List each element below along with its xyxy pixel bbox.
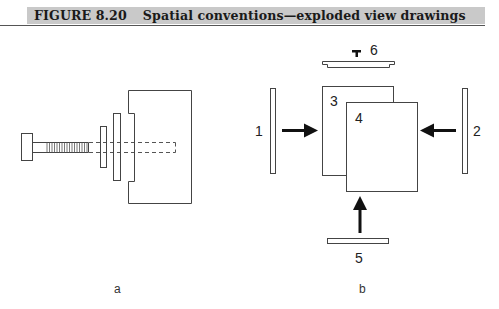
bolt-head <box>22 134 33 161</box>
panel-a <box>22 91 192 204</box>
label-1: 1 <box>255 123 263 139</box>
panel-b: 6 1 3 4 2 5 <box>255 42 481 266</box>
small-washer <box>101 127 107 168</box>
arrow-up-icon <box>353 196 367 233</box>
figure-drawing: a 6 1 3 4 2 <box>0 0 499 309</box>
t-fastener-icon <box>352 50 361 57</box>
panel-a-caption: a <box>114 282 121 296</box>
label-4: 4 <box>355 110 363 126</box>
arrow-left-icon <box>420 124 456 138</box>
hidden-bore-dashed <box>89 143 176 153</box>
large-washer <box>114 114 121 181</box>
panel-b-caption: b <box>359 282 366 296</box>
part-6-plate <box>323 62 395 68</box>
arrow-right-icon <box>282 124 318 138</box>
stepped-block <box>129 91 192 204</box>
bolt-threads <box>47 143 87 153</box>
part-1-bar <box>271 89 276 174</box>
part-2-bar <box>463 89 468 174</box>
label-5: 5 <box>355 250 363 266</box>
label-6: 6 <box>370 42 378 58</box>
part-5-bar <box>328 239 389 244</box>
label-3: 3 <box>330 93 338 109</box>
label-2: 2 <box>473 123 481 139</box>
